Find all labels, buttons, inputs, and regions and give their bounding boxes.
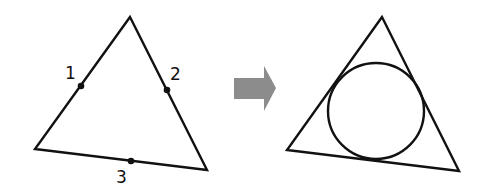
point-1-label: 1 — [65, 63, 76, 83]
right-triangle — [287, 17, 459, 171]
point-3-dot — [128, 158, 135, 165]
point-3-label: 3 — [116, 167, 127, 187]
diagram-canvas: 1 2 3 — [0, 0, 478, 190]
right-arrow-icon — [234, 66, 276, 111]
left-triangle — [35, 17, 207, 170]
point-2-label: 2 — [170, 64, 181, 84]
point-2-dot — [164, 87, 171, 94]
inscribed-circle — [328, 63, 424, 159]
point-1-dot — [78, 83, 85, 90]
